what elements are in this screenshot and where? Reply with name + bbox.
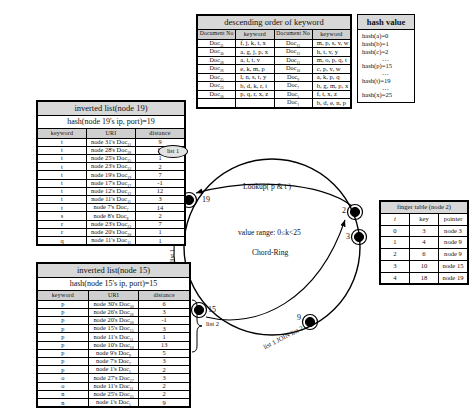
doc-no-left: Doc25 [198,73,236,82]
inv19-keyword: s [38,212,87,220]
doc-keywords-left: a, i, t, v [236,56,274,65]
inverted-list-node-19: inverted list(node 19) hash(node 19's ip… [36,100,186,246]
hash-entry: hash(a)=0 [358,32,414,40]
finger-key: 18 [410,272,439,284]
doc-no-right: Doc7 [274,82,312,91]
doc-no-left: Doc20 [198,90,236,99]
list2-side-label: list 2 [206,320,219,327]
col-doc-no-left: Document No [198,29,236,39]
ring-node-9-label: 9 [297,313,301,322]
table-row: Doc20p, q, r, x, zDoc5f, t, x, z [198,90,351,99]
inv19-uri: node 19's Doc19 [87,171,136,179]
doc-no-right: Doc12 [274,48,312,57]
inv15-col-uri: URI [88,290,139,300]
table-row: Doc26e, k, m, pDoc10c, p, v, w [198,65,351,74]
finger-i: 2 [381,249,410,261]
doc-keywords-right: b, g, m, p, x [312,82,350,91]
table-row: pnode 15's Doc153 [38,325,190,333]
table-row: 14node 9 [381,237,468,249]
finger-pointer: node 19 [439,272,468,284]
inv15-distance: 3 [139,308,190,316]
doc-no-right: Doc10 [274,65,312,74]
doc-no-left: Doc30 [198,48,236,57]
finger-i: 1 [381,237,410,249]
doc-keywords-left: f, j, k, t, x [236,39,274,48]
doc-no-left: Doc26 [198,65,236,74]
table-row: nnode 1's Doc19 [38,399,190,407]
inv19-hash-line: hash(node 19's ip, port)=19 [38,115,185,128]
finger-pointer: node 9 [439,237,468,249]
finger-col-i: i [381,213,410,225]
doc-keywords-right: a, k, p, q [312,73,350,82]
list1-side-label: list 1 [168,249,175,262]
ring-node-15-label: 15 [208,305,216,314]
table-row: 310node 15 [381,260,468,272]
ring-node-2-label: 2 [342,206,346,215]
inv15-keyword: n [38,390,89,398]
inv15-uri: node 1's Doc1 [88,399,139,407]
inv15-keyword: p [38,358,89,366]
doc-keywords-left: e, k, m, p [236,65,274,74]
hash-table-title: hash value [358,15,414,29]
inv15-distance: -1 [139,316,190,324]
finger-pointer: node 15 [439,260,468,272]
table-row: qnode 11's Doc111 [38,237,185,245]
table-row: Doc30a, g, j, p, xDoc12h, t, v, y [198,48,351,57]
inv19-distance: 7 [136,220,185,228]
col-keyword-right: keyword [312,29,350,39]
doc-no-left: Doc23 [198,82,236,91]
inv15-distance: 1 [139,333,190,341]
table-row: 418node 19 [381,272,468,284]
inv19-keyword: t [38,187,87,195]
inv15-distance: 13 [139,341,190,349]
table-row: tnode 31's Doc319 [38,138,185,146]
inv19-distance: 1 [136,228,185,236]
finger-col-pointer: pointer [439,213,468,225]
inv15-distance: 9 [139,399,190,407]
finger-i: 0 [381,225,410,237]
table-row: Doc1b, d, e, n, p [198,99,351,108]
inv15-keyword: o [38,382,89,390]
inv19-distance: 2 [136,163,185,171]
col-keyword-left: keyword [236,29,274,39]
doc-no-right: Doc15 [274,39,312,48]
finger-pointer: node 3 [439,225,468,237]
inv15-distance: 3 [139,374,190,382]
table-row: 26node 9 [381,249,468,261]
inv15-uri: node 27's Doc27 [88,374,139,382]
inv15-keyword: o [38,374,89,382]
inv15-keyword: p [38,325,89,333]
inv15-distance: 2 [139,390,190,398]
lookup-label: Lookup( p & t ) [243,182,291,191]
inv19-keyword: q [38,237,87,245]
inv15-keyword: p [38,308,89,316]
inv15-uri: node 30's Doc30 [88,300,139,308]
inv15-hash-line: hash(node 15's ip, port)=15 [38,277,190,290]
inv19-keyword: r [38,228,87,236]
inv19-uri: node 7's Doc7 [87,204,136,212]
inv15-keyword: p [38,349,89,357]
doc-keywords-left [236,99,274,108]
doc-keywords-right: f, t, x, z [312,90,350,99]
inv15-distance: 3 [139,358,190,366]
col-doc-no-right: Document No [274,29,312,39]
inv15-keyword: p [38,333,89,341]
inv19-keyword: t [38,163,87,171]
table-row: pnode 30's Doc306 [38,300,190,308]
doc-keywords-right: h, t, v, y [312,48,350,57]
table-row: 03node 3 [381,225,468,237]
doc-keywords-left: a, g, j, p, x [236,48,274,57]
inv19-keyword: t [38,171,87,179]
inv15-uri: node 15's Doc15 [88,325,139,333]
inv19-col-uri: URI [87,128,136,138]
inv15-keyword: p [38,316,89,324]
doc-no-left: Doc31 [198,39,236,48]
finger-table-title: finger table (node 2) [381,202,468,214]
inv15-keyword: p [38,341,89,349]
inv15-col-keyword: keyword [38,290,89,300]
inv15-uri: node 11's Doc11 [88,333,139,341]
hash-entry: hash(b)=1 [358,40,414,48]
table-row: Doc23b, d, k, r, tDoc7b, g, m, p, x [198,82,351,91]
inv19-uri: node 8's Doc8 [87,212,136,220]
finger-i: 3 [381,260,410,272]
